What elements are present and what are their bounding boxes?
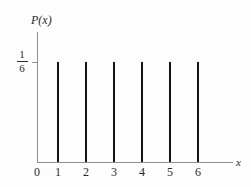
x-axis-label: x [236,156,241,168]
x-axis-tick-0 [37,158,38,163]
x-tick-label-4: 4 [132,165,152,179]
x-axis-line [37,162,233,163]
y-tick-label-one-sixth: 1 6 [15,49,29,74]
x-tick-label-6: 6 [188,165,208,179]
bar-x-4 [141,62,143,162]
y-axis-tick-one-sixth [32,62,38,63]
fraction-denominator: 6 [15,63,29,74]
x-tick-label-2: 2 [76,165,96,179]
x-tick-label-3: 3 [104,165,124,179]
probability-distribution-figure: P(x) 1 6 0 1 2 3 4 5 6 x [0,0,251,187]
bar-x-3 [113,62,115,162]
bar-x-5 [169,62,171,162]
bar-x-6 [197,62,199,162]
x-tick-label-0: 0 [27,165,47,179]
y-axis-line [37,32,38,163]
fraction-numerator: 1 [15,49,29,60]
bar-x-1 [57,62,59,162]
x-tick-label-1: 1 [48,165,68,179]
x-tick-label-5: 5 [160,165,180,179]
y-axis-label: P(x) [31,13,52,28]
bar-x-2 [85,62,87,162]
